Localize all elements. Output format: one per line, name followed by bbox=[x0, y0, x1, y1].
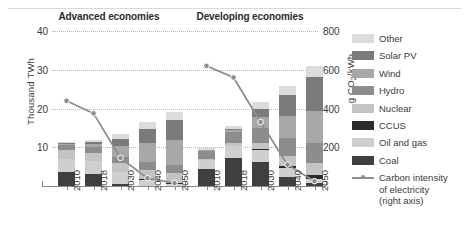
right-axis-tick-label: 600 bbox=[323, 64, 340, 75]
carbon-intensity-marker bbox=[258, 119, 264, 125]
legend-item-wind[interactable]: Wind bbox=[352, 68, 467, 79]
legend-items: OtherSolar PVWindHydroNuclearCCUSOil and… bbox=[352, 33, 467, 166]
right-axis-tick-label: 800 bbox=[323, 26, 340, 37]
legend-item-label: Carbon intensity of electricity (right a… bbox=[379, 172, 448, 207]
x-axis-tick bbox=[67, 186, 68, 190]
x-axis-label: 2040 bbox=[152, 170, 163, 191]
legend-item-coal[interactable]: Coal bbox=[352, 155, 467, 166]
legend-item-label: Other bbox=[379, 33, 403, 44]
plot-area: 10203040 200400600800 bbox=[52, 31, 318, 186]
x-axis-label: 2030 bbox=[265, 170, 276, 191]
legend-item-label: Coal bbox=[379, 155, 399, 166]
carbon-intensity-marker bbox=[118, 155, 124, 161]
legend-item-label: Wind bbox=[379, 68, 401, 79]
carbon-intensity-marker bbox=[231, 75, 237, 81]
x-axis-tick bbox=[175, 186, 176, 190]
legend: OtherSolar PVWindHydroNuclearCCUSOil and… bbox=[352, 33, 467, 207]
legend-item-hydro[interactable]: Hydro bbox=[352, 85, 467, 96]
x-axis-label: 2018 bbox=[238, 170, 249, 191]
x-axis-label: 2050 bbox=[179, 170, 190, 191]
x-axis-label: 2050 bbox=[319, 170, 330, 191]
x-axis-tick bbox=[261, 186, 262, 190]
legend-item-label: Solar PV bbox=[379, 50, 417, 61]
panel-title-advanced: Advanced economies bbox=[44, 11, 174, 22]
x-axis-tick bbox=[315, 186, 316, 190]
x-axis-tick bbox=[148, 186, 149, 190]
right-axis-tick-label: 400 bbox=[323, 103, 340, 114]
left-axis-tick-label: 20 bbox=[37, 103, 48, 114]
carbon-intensity-marker bbox=[285, 162, 291, 168]
legend-swatch-icon bbox=[352, 156, 374, 165]
legend-swatch-icon bbox=[352, 121, 374, 130]
legend-line-label-1: Carbon intensity bbox=[379, 172, 448, 183]
legend-swatch-icon bbox=[352, 51, 374, 60]
x-axis-tick bbox=[121, 186, 122, 190]
line-swatch-icon bbox=[352, 172, 374, 183]
carbon-intensity-lines bbox=[52, 31, 318, 186]
legend-swatch-icon bbox=[352, 104, 374, 113]
legend-swatch-icon bbox=[352, 138, 374, 147]
x-axis-label: 2018 bbox=[98, 170, 109, 191]
legend-swatch-icon bbox=[352, 34, 374, 43]
x-axis-tick bbox=[207, 186, 208, 190]
legend-item-label: Oil and gas bbox=[379, 137, 427, 148]
legend-item-oil-and-gas[interactable]: Oil and gas bbox=[352, 137, 467, 148]
legend-item-carbon-intensity[interactable]: Carbon intensity of electricity (right a… bbox=[352, 172, 467, 207]
legend-line-label-3: (right axis) bbox=[379, 195, 423, 206]
carbon-intensity-marker bbox=[91, 111, 97, 117]
carbon-intensity-marker bbox=[64, 98, 70, 104]
x-axis-tick bbox=[94, 186, 95, 190]
carbon-intensity-marker bbox=[145, 175, 151, 181]
x-axis-tick bbox=[234, 186, 235, 190]
legend-item-label: Nuclear bbox=[379, 103, 412, 114]
x-axis-label: 2010 bbox=[211, 170, 222, 191]
right-axis-tick-label: 200 bbox=[323, 142, 340, 153]
left-axis-tick-label: 30 bbox=[37, 64, 48, 75]
panel-title-developing: Developing economies bbox=[180, 11, 320, 22]
legend-swatch-icon bbox=[352, 86, 374, 95]
carbon-intensity-marker bbox=[312, 178, 318, 184]
x-axis-tick bbox=[288, 186, 289, 190]
legend-item-other[interactable]: Other bbox=[352, 33, 467, 44]
legend-item-label: Hydro bbox=[379, 85, 404, 96]
left-axis-tick-label: 10 bbox=[37, 142, 48, 153]
legend-item-label: CCUS bbox=[379, 120, 406, 131]
chart-root: Thousand TWh g CO2/kWh Advanced economie… bbox=[0, 0, 469, 230]
legend-item-solar-pv[interactable]: Solar PV bbox=[352, 50, 467, 61]
axis-end-cap bbox=[42, 181, 43, 186]
x-axis-label: 2040 bbox=[292, 170, 303, 191]
x-axis-label: 2030 bbox=[125, 170, 136, 191]
legend-item-nuclear[interactable]: Nuclear bbox=[352, 103, 467, 114]
top-divider bbox=[8, 8, 461, 9]
left-axis-tick-label: 40 bbox=[37, 26, 48, 37]
legend-line-label-2: of electricity bbox=[379, 184, 429, 195]
legend-item-ccus[interactable]: CCUS bbox=[352, 120, 467, 131]
x-axis-label: 2010 bbox=[71, 170, 82, 191]
legend-swatch-icon bbox=[352, 69, 374, 78]
left-axis-title: Thousand TWh bbox=[25, 37, 36, 147]
carbon-intensity-marker bbox=[204, 63, 210, 69]
